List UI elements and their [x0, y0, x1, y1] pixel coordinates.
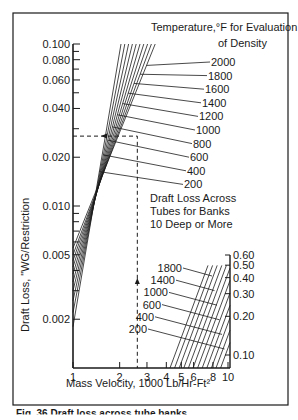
- y-tick-label: 0.010: [42, 200, 70, 212]
- legend-label-800: 800: [193, 138, 211, 150]
- temperature-line-600: [73, 44, 129, 301]
- right-tick-label: 0.30: [233, 288, 254, 300]
- leader-line: [128, 93, 201, 103]
- temperature-line-200: [73, 44, 121, 327]
- chart-figure: 0.1000.0800.0600.0400.0200.0100.0050.002…: [0, 0, 298, 420]
- y-tick-label: 0.040: [42, 102, 70, 114]
- legend-label-1600: 1600: [205, 83, 229, 95]
- chart-svg: 0.1000.0800.0600.0400.0200.0100.0050.002…: [0, 0, 298, 420]
- annotation-line1: Draft Loss Across: [150, 192, 237, 204]
- inset-label-1000: 1000: [144, 286, 168, 298]
- legend-label-200: 200: [184, 178, 202, 190]
- inset-line: [179, 265, 217, 368]
- leader-line: [117, 115, 195, 130]
- temperature-line-1200: [73, 44, 140, 274]
- legend-title-line2: of Density: [218, 37, 267, 49]
- inset-label-400: 400: [136, 311, 154, 323]
- legend-label-600: 600: [190, 151, 208, 163]
- y-tick-label: 0.060: [42, 74, 70, 86]
- leader-line: [99, 172, 183, 185]
- inset-leader: [155, 317, 222, 335]
- y-tick-label: 0.005: [42, 249, 70, 261]
- legend-label-1000: 1000: [196, 124, 220, 136]
- temperature-line-800: [73, 44, 132, 291]
- annotation-line2: Tubes for Banks: [150, 205, 230, 217]
- temperature-line-1400: [73, 44, 144, 267]
- temperature-line-1600: [73, 44, 148, 261]
- legend-label-400: 400: [187, 165, 205, 177]
- inset-label-1800: 1800: [158, 262, 182, 274]
- right-tick-label: 0.10: [233, 349, 254, 361]
- inset-line: [184, 265, 222, 368]
- legend-label-2000: 2000: [211, 56, 235, 68]
- leader-line: [123, 104, 198, 117]
- inset-line: [211, 318, 230, 368]
- inset-leader: [176, 280, 215, 290]
- right-tick-label: 0.40: [233, 272, 254, 284]
- x-tick-label: 8: [210, 371, 216, 383]
- leader-line: [134, 83, 204, 89]
- leader-line: [108, 140, 189, 157]
- arrow-up-icon: [135, 278, 140, 284]
- inset-line: [207, 305, 230, 368]
- y-tick-label: 0.020: [42, 151, 70, 163]
- inset-leader: [183, 268, 212, 276]
- inset-line: [170, 265, 208, 368]
- leader-line: [147, 62, 210, 65]
- inset-label-1400: 1400: [151, 274, 175, 286]
- right-tick-label: 0.20: [233, 310, 254, 322]
- right-tick-label: 0.50: [233, 259, 254, 271]
- x-tick-label: 10: [222, 371, 234, 383]
- legend-title-line1: Temperature,°F for Evaluation: [151, 21, 297, 33]
- x-axis-label: Mass Velocity, 1000 Lb/Hr-Ft²: [66, 377, 210, 389]
- inset-label-600: 600: [143, 299, 161, 311]
- leader-line: [112, 127, 192, 144]
- y-tick-label: 0.002: [42, 313, 70, 325]
- annotation-line3: 10 Deep or More: [150, 218, 233, 230]
- legend-label-1200: 1200: [199, 110, 223, 122]
- temperature-line-2000: [73, 44, 155, 248]
- leader-line: [103, 155, 186, 171]
- y-tick-label: 0.080: [42, 54, 70, 66]
- legend-label-1800: 1800: [208, 70, 232, 82]
- arrow-left-icon: [101, 134, 107, 139]
- temperature-line-1000: [73, 44, 136, 282]
- y-tick-label: 0.100: [42, 38, 70, 50]
- leader-line: [140, 74, 207, 75]
- y-axis-label: Draft Loss, "WG/Restriction: [19, 198, 31, 332]
- temperature-line-1800: [73, 44, 151, 255]
- legend-label-1400: 1400: [202, 97, 226, 109]
- temperature-line-400: [73, 44, 125, 313]
- inset-chart: 0.600.500.400.300.200.101800140010006004…: [129, 249, 255, 368]
